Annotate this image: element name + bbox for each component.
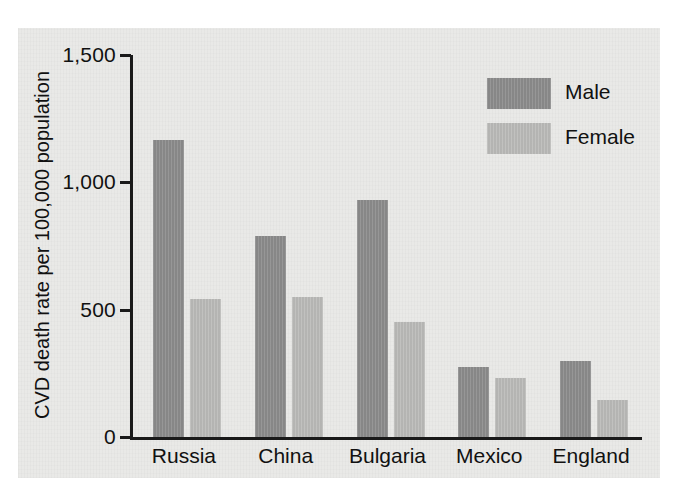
- bar-russia-male: [153, 140, 184, 437]
- bar-china-male: [255, 236, 286, 437]
- bar-mexico-female: [495, 378, 526, 437]
- legend-item-female: Female: [487, 123, 647, 168]
- x-axis-label-bulgaria: Bulgaria: [337, 444, 439, 468]
- legend-item-male: Male: [487, 78, 647, 123]
- bar-bulgaria-male: [357, 200, 388, 437]
- x-axis-label-england: England: [540, 444, 642, 468]
- chart-figure: CVD death rate per 100,000 population 05…: [0, 0, 677, 502]
- x-axis-line: [130, 437, 642, 440]
- y-axis-tick-label: 1,500: [62, 43, 116, 67]
- bar-england-female: [597, 400, 628, 437]
- y-axis-tick-label: 0: [104, 425, 116, 449]
- chart-legend: Male Female: [487, 78, 647, 168]
- legend-swatch-female-icon: [487, 123, 551, 154]
- bar-group: [235, 55, 337, 437]
- y-axis-tick-label-wrap: 1,000: [0, 170, 116, 191]
- y-axis-tick-mark: [120, 181, 131, 184]
- legend-label-male: Male: [565, 80, 611, 104]
- x-axis-label-russia: Russia: [133, 444, 235, 468]
- legend-swatch-male-icon: [487, 78, 551, 109]
- bar-group: [133, 55, 235, 437]
- x-axis-label-mexico: Mexico: [438, 444, 540, 468]
- bar-russia-female: [190, 299, 221, 437]
- y-axis-tick-mark: [120, 436, 131, 439]
- bar-england-male: [560, 361, 591, 437]
- y-axis-tick-label: 500: [80, 298, 116, 322]
- y-axis-tick-label-wrap: 500: [0, 298, 116, 319]
- y-axis-title: CVD death rate per 100,000 population: [28, 20, 56, 470]
- x-axis-label-china: China: [235, 444, 337, 468]
- y-axis-tick-label: 1,000: [62, 170, 116, 194]
- y-axis-tick-mark: [120, 54, 131, 57]
- y-axis-tick-label-wrap: 0: [0, 425, 116, 446]
- bar-china-female: [292, 297, 323, 437]
- legend-label-female: Female: [565, 125, 635, 149]
- y-axis-tick-label-wrap: 1,500: [0, 43, 116, 64]
- y-axis-tick-mark: [120, 309, 131, 312]
- bar-bulgaria-female: [394, 322, 425, 437]
- bar-mexico-male: [458, 367, 489, 437]
- bar-group: [337, 55, 439, 437]
